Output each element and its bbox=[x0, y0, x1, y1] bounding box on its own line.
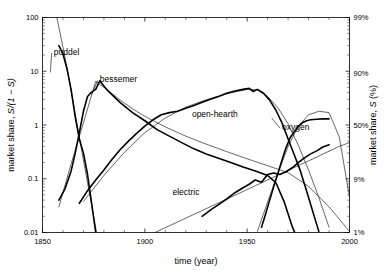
y-tick-label-left: 1 bbox=[34, 121, 38, 130]
series-label-electric: electric bbox=[172, 187, 200, 197]
chart-background bbox=[0, 0, 386, 275]
x-axis-title: time (year) bbox=[174, 256, 217, 266]
y-tick-label-right: 90% bbox=[354, 69, 369, 78]
series-label-oxygen: oxygen bbox=[282, 122, 310, 132]
svg-text:market share, S/(1 − S): market share, S/(1 − S) bbox=[6, 78, 16, 171]
figure-container: 18501900195020000.010.11101001%9%50%90%9… bbox=[0, 0, 386, 275]
y-tick-label-right: 99% bbox=[354, 13, 369, 22]
y-axis-right-title: market share, S (%) bbox=[368, 85, 378, 165]
y-tick-label-right: 9% bbox=[354, 175, 365, 184]
technology-substitution-chart: 18501900195020000.010.11101001%9%50%90%9… bbox=[0, 0, 386, 275]
y-tick-label-left: 0.1 bbox=[28, 174, 38, 183]
y-axis-left-title-math: S/(1 − S) bbox=[6, 78, 16, 114]
series-label-open-hearth: open-hearth bbox=[192, 109, 238, 119]
series-label-puddel: puddel bbox=[54, 47, 80, 57]
series-label-bessemer: bessemer bbox=[100, 74, 137, 84]
y-tick-label-left: 0.01 bbox=[24, 228, 39, 237]
y-tick-label-right: 1% bbox=[354, 228, 365, 237]
y-axis-right-title-suffix: (%) bbox=[368, 85, 378, 102]
x-tick-label: 1900 bbox=[136, 237, 153, 246]
y-axis-left-title-prefix: market share, bbox=[6, 114, 16, 172]
x-tick-label: 2000 bbox=[341, 237, 358, 246]
y-axis-left-title: market share, S/(1 − S) bbox=[6, 78, 16, 171]
svg-text:market share, S (%): market share, S (%) bbox=[368, 85, 378, 165]
y-tick-label-right: 50% bbox=[354, 121, 369, 130]
x-tick-label: 1850 bbox=[34, 237, 51, 246]
y-tick-label-left: 10 bbox=[30, 67, 38, 76]
y-tick-label-left: 100 bbox=[26, 13, 39, 22]
x-tick-label: 1950 bbox=[239, 237, 256, 246]
y-axis-right-title-prefix: market share, bbox=[368, 107, 378, 165]
